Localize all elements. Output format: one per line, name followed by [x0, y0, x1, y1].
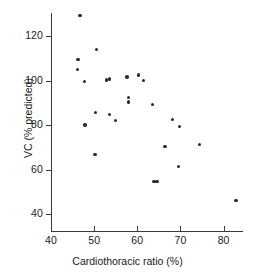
x-tick-mark: [137, 226, 138, 232]
data-point: [234, 199, 237, 202]
x-tick-mark: [224, 226, 225, 232]
y-tick-label: 40: [13, 207, 43, 219]
data-point: [78, 14, 81, 17]
data-point: [76, 68, 79, 71]
data-point: [94, 111, 97, 114]
data-point: [152, 180, 155, 183]
data-point: [198, 143, 201, 146]
x-tick-label: 50: [79, 234, 109, 246]
y-tick-mark: [46, 36, 52, 37]
data-point: [178, 125, 181, 128]
y-axis-line: [51, 13, 52, 232]
x-tick-mark: [51, 226, 52, 232]
data-point: [93, 153, 96, 156]
data-point: [76, 58, 79, 61]
x-axis-title: Cardiothoracic ratio (%): [0, 255, 255, 267]
x-tick-mark: [180, 226, 181, 232]
data-point: [105, 78, 108, 81]
x-tick-label: 70: [165, 234, 195, 246]
data-point: [127, 96, 130, 99]
data-point: [171, 118, 174, 121]
y-tick-mark: [46, 170, 52, 171]
x-tick-label: 80: [209, 234, 239, 246]
y-tick-mark: [46, 81, 52, 82]
data-point: [95, 48, 98, 51]
data-point: [142, 79, 145, 82]
y-tick-mark: [46, 214, 52, 215]
x-axis-line: [51, 231, 243, 232]
data-point: [83, 80, 86, 83]
data-point: [151, 103, 154, 106]
scatter-plot-figure: 406080100120 4050607080 Cardiothoracic r…: [0, 0, 255, 280]
data-point: [137, 73, 140, 76]
data-point: [114, 119, 117, 122]
data-point: [125, 75, 128, 78]
x-tick-label: 60: [122, 234, 152, 246]
data-point: [155, 180, 158, 183]
x-tick-label: 40: [36, 234, 66, 246]
data-point: [108, 77, 111, 80]
y-axis-title: VC (% predicted): [22, 38, 34, 198]
y-tick-mark: [46, 125, 52, 126]
x-tick-mark: [94, 226, 95, 232]
data-point: [177, 165, 180, 168]
data-point: [127, 100, 130, 103]
data-point: [163, 145, 166, 148]
data-point: [83, 123, 86, 126]
data-point: [108, 113, 111, 116]
